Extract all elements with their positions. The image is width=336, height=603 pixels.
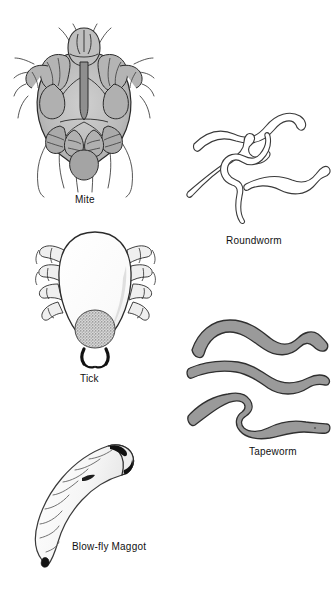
mite-illustration (14, 22, 154, 197)
tapeworm-specimen-1 (192, 320, 328, 357)
caption-mite: Mite (75, 194, 95, 206)
tick-illustration (38, 228, 153, 370)
maggot-tail-tip (41, 558, 49, 568)
tapeworm-specimen-2 (187, 361, 329, 394)
tick-palp-left (82, 349, 84, 364)
tick-leg-right-2 (129, 265, 152, 282)
caption-tapeworm: Tapeworm (249, 446, 297, 458)
tapeworm-illustration (186, 312, 331, 437)
caption-tick: Tick (80, 373, 99, 385)
mite-sternum (80, 62, 88, 120)
tick-palp-right (106, 349, 108, 364)
tick-capitulum (75, 310, 115, 348)
illustration-plate: Mite Roundworm (0, 0, 336, 603)
tapeworm-detail-dot (314, 427, 316, 429)
mite-opisthosoma (70, 150, 99, 180)
caption-roundworm: Roundworm (226, 235, 282, 247)
tick-leg-left-3 (39, 284, 62, 300)
roundworm-illustration (186, 98, 331, 223)
roundworm-specimen-4 (244, 166, 330, 193)
tapeworm-specimen-3 (188, 393, 330, 438)
tick-leg-right-3 (129, 284, 152, 300)
caption-maggot: Blow-fly Maggot (72, 541, 146, 553)
